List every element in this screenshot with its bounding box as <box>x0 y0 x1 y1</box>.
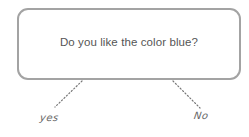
answer-yes-label: yes <box>39 112 59 123</box>
connector-yes <box>55 81 82 107</box>
connectors <box>0 0 249 137</box>
answer-no-label: No <box>193 110 209 121</box>
connector-no <box>173 81 200 108</box>
